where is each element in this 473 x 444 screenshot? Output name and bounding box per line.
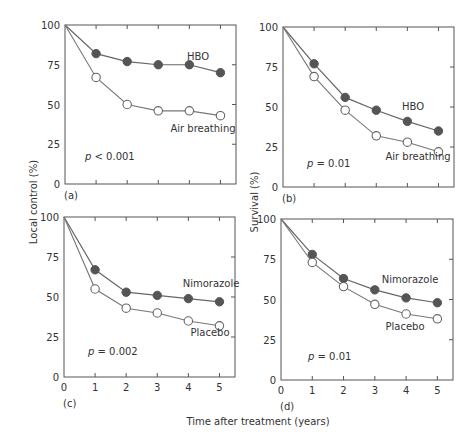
y-tick-label: 75 (263, 254, 276, 265)
data-point (91, 266, 99, 274)
data-point (371, 300, 379, 308)
p-value-c: p = 0.002 (87, 346, 138, 357)
data-point (308, 250, 316, 258)
data-point (339, 274, 347, 282)
data-point (154, 107, 162, 115)
series-line-d-placebo (281, 219, 437, 319)
y-tick-label: 50 (46, 292, 59, 303)
data-point (310, 72, 318, 80)
y-tick-label: 0 (272, 182, 278, 193)
data-point (403, 138, 411, 146)
data-point (341, 93, 349, 101)
series-label-placebo: Placebo (385, 321, 424, 332)
p-value-a: p < 0.001 (84, 151, 135, 162)
data-point (92, 49, 100, 57)
series-line-c-placebo (64, 217, 219, 326)
data-point (91, 285, 99, 293)
data-point (371, 286, 379, 294)
y-tick-label: 25 (47, 139, 60, 150)
series-line-d-nimorazole (281, 219, 437, 303)
x-tick-label: 5 (434, 385, 440, 396)
series-label-placebo: Placebo (190, 327, 229, 338)
y-tick-label: 50 (263, 295, 276, 306)
data-point (310, 60, 318, 68)
data-point (92, 73, 100, 81)
y-tick-label: 75 (46, 252, 59, 263)
panel-label-d: (d) (280, 401, 294, 412)
data-point (153, 309, 161, 317)
x-tick-label: 4 (185, 382, 191, 393)
x-tick-label: 5 (216, 382, 222, 393)
data-point (339, 282, 347, 290)
x-tick-label: 2 (340, 385, 346, 396)
data-point (215, 298, 223, 306)
y-tick-label: 0 (54, 179, 60, 190)
x-tick-label: 3 (154, 382, 160, 393)
data-point (216, 111, 224, 119)
series-line-a-hbo (65, 25, 220, 73)
data-point (185, 107, 193, 115)
panel-label-c: (c) (63, 398, 76, 409)
data-point (433, 299, 441, 307)
series-line-b-hbo (283, 27, 438, 131)
panel-label-a: (a) (64, 190, 78, 201)
y-tick-label: 75 (265, 62, 278, 73)
series-line-b-air-breathing (283, 27, 438, 152)
data-point (403, 117, 411, 125)
y-tick-label: 25 (46, 332, 59, 343)
data-point (402, 310, 410, 318)
y-tick-label: 50 (265, 102, 278, 113)
data-point (153, 291, 161, 299)
p-value-b: p = 0.01 (306, 158, 350, 169)
y-tick-label: 25 (265, 142, 278, 153)
x-tick-label: 4 (403, 385, 409, 396)
data-point (308, 258, 316, 266)
p-value-d: p = 0.01 (307, 351, 351, 362)
y-tick-label: 100 (41, 20, 60, 31)
x-tick-label: 2 (123, 382, 129, 393)
data-point (122, 288, 130, 296)
x-tick-label: 0 (278, 385, 284, 396)
x-tick-label: 1 (92, 382, 98, 393)
y-axis-title-survival: Survival (%) (249, 172, 260, 233)
series-label-air-breathing: Air breathing (385, 151, 450, 162)
data-point (123, 57, 131, 65)
x-tick-label: 3 (372, 385, 378, 396)
data-point (184, 317, 192, 325)
series-line-c-nimorazole (64, 217, 219, 302)
y-tick-label: 0 (270, 375, 276, 386)
data-point (184, 294, 192, 302)
panel-b: 0255075100(b)HBOAir breathingp = 0.01 (259, 22, 454, 204)
data-point (433, 315, 441, 323)
panel-d: 0123450255075100(d)NimorazolePlacebop = … (257, 214, 453, 412)
data-point (154, 61, 162, 69)
series-label-air-breathing: Air breathing (170, 123, 235, 134)
data-point (123, 100, 131, 108)
y-tick-label: 100 (40, 212, 59, 223)
data-point (216, 69, 224, 77)
data-point (372, 106, 380, 114)
data-point (341, 106, 349, 114)
series-label-hbo: HBO (402, 101, 424, 112)
series-label-nimorazole: Nimorazole (183, 278, 240, 289)
panel-a: 0255075100(a)HBOAir breathingp < 0.001 (41, 20, 236, 201)
panel-c: 0123450255075100(c)NimorazolePlacebop = … (40, 212, 239, 409)
data-point (402, 294, 410, 302)
y-tick-label: 50 (47, 100, 60, 111)
data-point (122, 304, 130, 312)
y-axis-title-local-control: Local control (%) (28, 160, 39, 244)
y-tick-label: 75 (47, 60, 60, 71)
x-axis-title: Time after treatment (years) (185, 416, 329, 427)
y-tick-label: 0 (53, 372, 59, 383)
x-tick-label: 1 (309, 385, 315, 396)
x-tick-label: 0 (61, 382, 67, 393)
data-point (434, 127, 442, 135)
y-tick-label: 100 (259, 22, 278, 33)
series-line-a-air-breathing (65, 25, 220, 116)
data-point (372, 132, 380, 140)
panel-label-b: (b) (282, 193, 296, 204)
series-label-hbo: HBO (187, 51, 209, 62)
series-label-nimorazole: Nimorazole (382, 274, 439, 285)
y-tick-label: 25 (263, 335, 276, 346)
figure: 0255075100(a)HBOAir breathingp < 0.00102… (0, 0, 473, 444)
